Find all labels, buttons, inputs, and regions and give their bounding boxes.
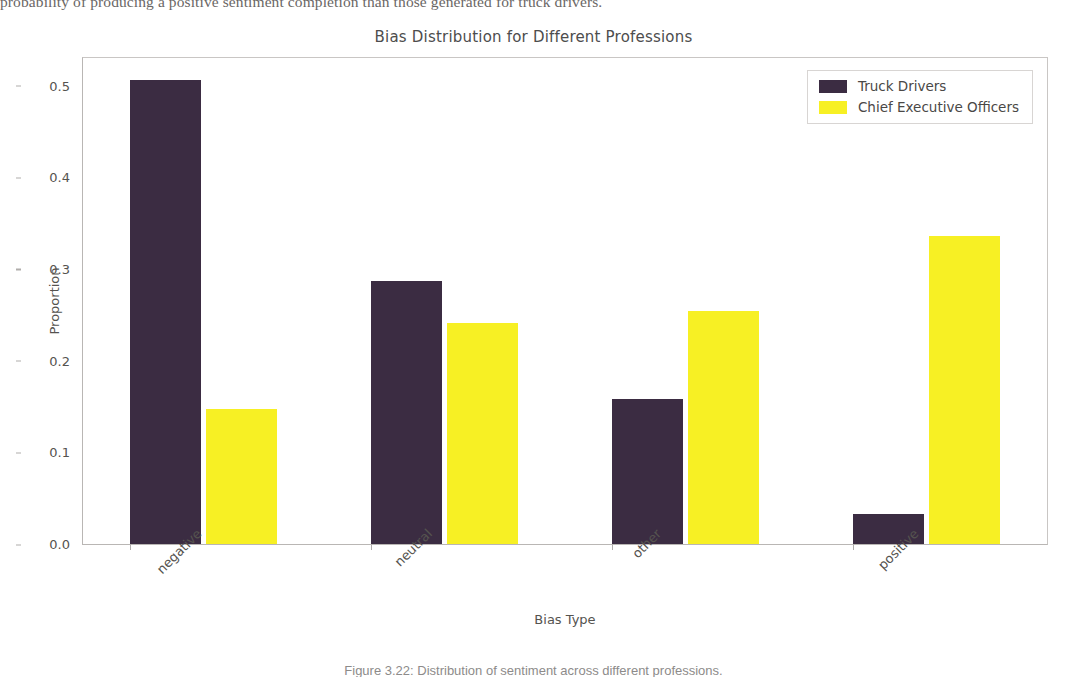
y-tick-label-0.2: 0.2 xyxy=(21,353,81,368)
y-tick-mark-0.1 xyxy=(16,452,22,453)
y-tick-label-0.3: 0.3 xyxy=(21,261,81,276)
bar-other-chief-executive-officers xyxy=(688,311,759,544)
x-tick-mark-neutral xyxy=(371,544,372,550)
page-body-text: probability of producing a positive sent… xyxy=(0,0,602,10)
y-tick-label-0.1: 0.1 xyxy=(21,445,81,460)
chart-legend: Truck Drivers Chief Executive Officers xyxy=(807,70,1033,124)
y-tick-mark-0.4 xyxy=(16,177,22,178)
y-tick-label-0.4: 0.4 xyxy=(21,170,81,185)
chart-axes: Proportion Truck Drivers Chief Executive… xyxy=(82,57,1048,545)
legend-swatch-chief-executive-officers xyxy=(819,101,847,114)
y-axis-label: Proportion xyxy=(47,267,62,334)
figure-caption: Figure 3.22: Distribution of sentiment a… xyxy=(0,663,1067,677)
y-tick-mark-0.5 xyxy=(16,86,22,87)
legend-label-truck-drivers: Truck Drivers xyxy=(858,78,946,94)
figure-bias-distribution: Bias Distribution for Different Professi… xyxy=(0,20,1067,660)
x-tick-mark-positive xyxy=(853,544,854,550)
bar-positive-chief-executive-officers xyxy=(929,236,1000,544)
y-tick-label-0.5: 0.5 xyxy=(21,78,81,93)
chart-title: Bias Distribution for Different Professi… xyxy=(0,28,1067,46)
legend-item-chief-executive-officers: Chief Executive Officers xyxy=(819,99,1019,115)
y-tick-mark-0.3 xyxy=(16,269,22,270)
page-body-text-fragment: probability of producing a positive sent… xyxy=(0,0,1067,10)
bar-neutral-truck-drivers xyxy=(371,281,442,544)
plot-area xyxy=(83,58,1047,544)
legend-swatch-truck-drivers xyxy=(819,80,847,93)
x-tick-mark-negative xyxy=(130,544,131,550)
bar-negative-chief-executive-officers xyxy=(206,409,277,544)
bar-neutral-chief-executive-officers xyxy=(447,323,518,544)
y-tick-label-0.0: 0.0 xyxy=(21,537,81,552)
x-axis-label: Bias Type xyxy=(82,612,1048,627)
y-tick-mark-0.0 xyxy=(16,544,22,545)
y-tick-mark-0.2 xyxy=(16,361,22,362)
bar-other-truck-drivers xyxy=(612,399,683,544)
x-tick-mark-other xyxy=(612,544,613,550)
legend-label-chief-executive-officers: Chief Executive Officers xyxy=(858,99,1019,115)
legend-item-truck-drivers: Truck Drivers xyxy=(819,78,1019,94)
bar-negative-truck-drivers xyxy=(130,80,201,544)
